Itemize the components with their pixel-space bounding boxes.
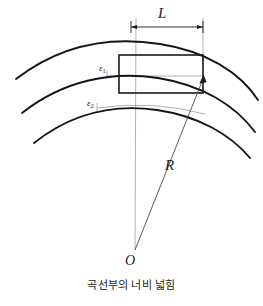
dimension-L-arrow-left xyxy=(131,25,137,29)
epsilon-1-subscript: 1 xyxy=(103,67,106,74)
middle-arc xyxy=(22,76,255,132)
dimension-L xyxy=(131,21,203,33)
figure-caption: 곡선부의 너비 넓힘 xyxy=(0,276,263,292)
epsilon-2-subscript: 2 xyxy=(91,102,94,109)
label-epsilon-2: ε2 xyxy=(87,99,94,109)
label-radius-R: R xyxy=(165,158,174,173)
roadway-arcs xyxy=(16,41,258,158)
vehicle-body xyxy=(119,55,203,93)
outer-arc xyxy=(16,41,258,100)
inner-arc xyxy=(34,108,250,158)
label-center-O: O xyxy=(125,254,135,268)
dimension-L-arrow-right xyxy=(197,25,203,29)
construction-lines xyxy=(97,18,205,250)
label-epsilon-1: ε1 xyxy=(99,64,106,74)
label-length-L: L xyxy=(158,6,166,21)
figure-container: L R O ε1 ε2 곡선부의 너비 넓힘 xyxy=(0,0,263,306)
vehicle-rectangle xyxy=(119,55,203,93)
vertical-centre-line xyxy=(135,18,136,250)
